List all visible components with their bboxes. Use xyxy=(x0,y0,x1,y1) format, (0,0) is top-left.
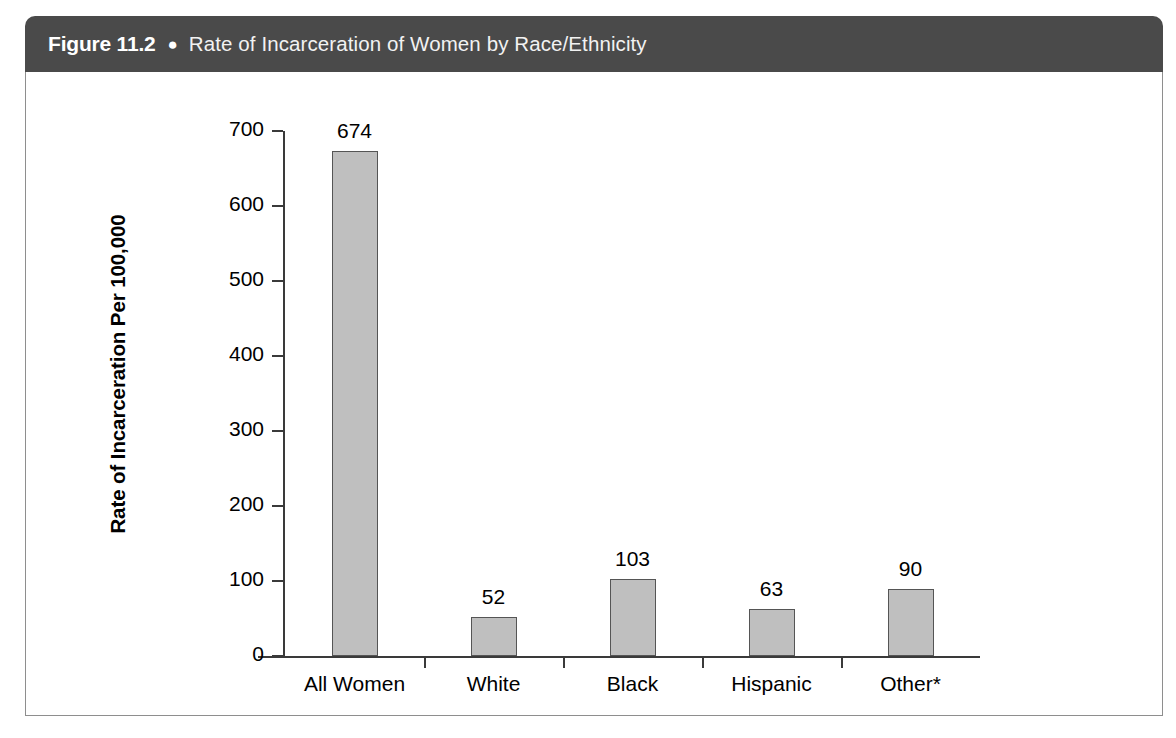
bar xyxy=(332,151,378,657)
y-tick-label: 700 xyxy=(194,117,264,141)
x-tick-mark xyxy=(702,657,704,668)
y-tick-mark xyxy=(272,280,283,282)
y-tick-mark xyxy=(272,205,283,207)
figure-title: Rate of Incarceration of Women by Race/E… xyxy=(189,32,647,56)
bar xyxy=(610,579,656,656)
y-axis-line xyxy=(283,131,285,658)
y-tick-mark xyxy=(272,355,283,357)
bar xyxy=(471,617,517,656)
x-tick-mark xyxy=(841,657,843,668)
bar-chart-plot: Rate of Incarceration Per 100,000 010020… xyxy=(26,72,1162,714)
x-tick-mark xyxy=(563,657,565,668)
x-tick-mark xyxy=(424,657,426,668)
bar-value-label: 52 xyxy=(444,585,544,609)
bar-value-label: 90 xyxy=(861,557,961,581)
figure-number: Figure 11.2 xyxy=(48,32,156,56)
y-tick-label: 200 xyxy=(194,492,264,516)
figure-container: Figure 11.2 ● Rate of Incarceration of W… xyxy=(25,16,1163,716)
y-tick-mark xyxy=(272,580,283,582)
bar-value-label: 63 xyxy=(722,577,822,601)
y-tick-label: 500 xyxy=(194,267,264,291)
category-label: Other* xyxy=(821,672,1001,696)
bar-value-label: 103 xyxy=(583,547,683,571)
figure-header: Figure 11.2 ● Rate of Incarceration of W… xyxy=(25,16,1163,72)
y-tick-label: 600 xyxy=(194,192,264,216)
y-tick-mark xyxy=(272,655,283,657)
bar xyxy=(888,589,934,657)
figure-body: Rate of Incarceration Per 100,000 010020… xyxy=(25,72,1163,716)
x-axis-line xyxy=(258,656,980,658)
y-tick-label: 400 xyxy=(194,342,264,366)
bullet-separator-icon: ● xyxy=(168,36,178,53)
y-tick-label: 0 xyxy=(194,642,264,666)
y-tick-mark xyxy=(272,505,283,507)
bar xyxy=(749,609,795,656)
figure-header-text: Figure 11.2 ● Rate of Incarceration of W… xyxy=(48,16,647,72)
bar-value-label: 674 xyxy=(305,119,405,143)
y-tick-mark xyxy=(272,130,283,132)
y-tick-label: 100 xyxy=(194,567,264,591)
y-tick-mark xyxy=(272,430,283,432)
y-tick-label: 300 xyxy=(194,417,264,441)
y-axis-label: Rate of Incarceration Per 100,000 xyxy=(106,204,130,544)
